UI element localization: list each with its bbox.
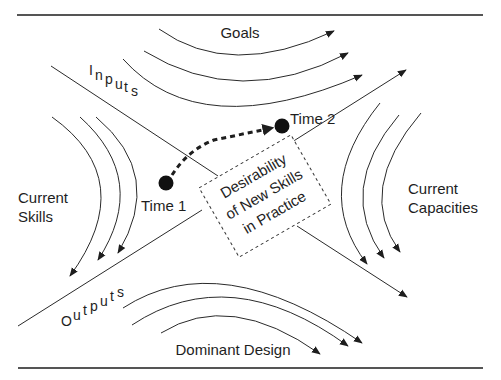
svg-text:I: I xyxy=(89,62,94,78)
current-skills-label-2: Skills xyxy=(18,208,53,225)
dominant-design-label: Dominant Design xyxy=(175,341,290,358)
time-1-label: Time 1 xyxy=(141,197,186,214)
svg-text:u: u xyxy=(100,293,109,309)
svg-text:n: n xyxy=(95,67,104,83)
time-2-point xyxy=(275,119,290,134)
desirability-box: Desirability of New Skills in Practice xyxy=(199,135,331,257)
svg-text:p: p xyxy=(90,298,99,314)
svg-text:u: u xyxy=(115,76,124,92)
current-skills-label-1: Current xyxy=(18,189,69,206)
svg-text:O: O xyxy=(61,313,73,329)
svg-text:t: t xyxy=(124,79,129,95)
svg-text:u: u xyxy=(73,307,82,323)
skills-diagram: Desirability of New Skills in Practice T… xyxy=(0,0,501,380)
time-1-point xyxy=(159,176,174,191)
svg-text:s: s xyxy=(117,284,125,300)
outputs-label: O u t p u t s xyxy=(61,284,125,329)
svg-text:s: s xyxy=(131,83,139,99)
time-2-label: Time 2 xyxy=(290,110,335,127)
svg-text:t: t xyxy=(110,288,115,304)
current-capacities-label-1: Current xyxy=(408,180,459,197)
svg-text:t: t xyxy=(83,302,88,318)
goals-label: Goals xyxy=(220,24,259,41)
current-capacities-label-2: Capacities xyxy=(408,199,478,216)
svg-text:p: p xyxy=(105,71,114,87)
